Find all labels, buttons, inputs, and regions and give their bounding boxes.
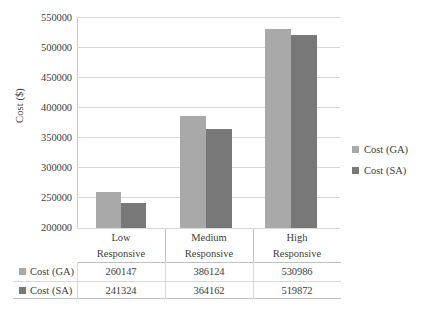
y-tick-label: 550000 xyxy=(10,12,72,23)
bar-chart-figure: Cost ($) 550000 500000 450000 400000 350… xyxy=(0,0,429,320)
plot-area xyxy=(77,17,340,228)
legend-item-cost-ga: Cost (GA) xyxy=(352,139,428,160)
bar-cost-sa-medium xyxy=(206,129,232,228)
table-cell-sa-high: 519872 xyxy=(253,282,341,301)
x-category-line: Responsive xyxy=(253,246,341,262)
bar-cost-sa-low xyxy=(121,203,146,228)
y-tick-label: 350000 xyxy=(10,132,72,143)
series-swatch-ga-icon xyxy=(19,268,26,275)
x-category-label-high: High Responsive xyxy=(253,229,341,262)
x-category-line: Low xyxy=(77,230,165,246)
x-category-label-low: Low Responsive xyxy=(77,229,165,262)
table-cell-sa-low: 241324 xyxy=(77,282,165,301)
table-row-label-sa: Cost (SA) xyxy=(13,282,77,301)
bar-cost-ga-medium xyxy=(180,116,206,228)
y-tick-label: 400000 xyxy=(10,102,72,113)
legend-item-cost-sa: Cost (SA) xyxy=(352,160,428,181)
table-cell-ga-medium: 386124 xyxy=(165,262,253,281)
table-cell-sa-medium: 364162 xyxy=(165,282,253,301)
y-tick-label: 450000 xyxy=(10,72,72,83)
x-category-line: Medium xyxy=(165,230,253,246)
x-category-line: Responsive xyxy=(77,246,165,262)
bar-cost-ga-low xyxy=(96,192,121,228)
table-cell-ga-high: 530986 xyxy=(253,262,341,281)
chart-legend: Cost (GA) Cost (SA) xyxy=(352,139,428,181)
legend-swatch-ga-icon xyxy=(352,146,359,153)
x-category-line: Responsive xyxy=(165,246,253,262)
gridline xyxy=(77,17,340,18)
x-category-line: High xyxy=(253,230,341,246)
series-swatch-sa-icon xyxy=(19,287,26,294)
y-tick-label: 500000 xyxy=(10,42,72,53)
x-category-label-medium: Medium Responsive xyxy=(165,229,253,262)
y-tick-label: 250000 xyxy=(10,192,72,203)
y-axis-tick-labels: 550000 500000 450000 400000 350000 30000… xyxy=(6,0,72,230)
data-table: Cost (GA) 260147 386124 530986 Cost (SA)… xyxy=(13,262,341,299)
legend-swatch-sa-icon xyxy=(352,167,359,174)
legend-label: Cost (GA) xyxy=(364,144,408,155)
bar-cost-sa-high xyxy=(291,35,317,228)
table-cell-ga-low: 260147 xyxy=(77,262,165,281)
table-row-label-text: Cost (SA) xyxy=(30,285,72,296)
table-row-label-ga: Cost (GA) xyxy=(13,262,77,281)
table-row-label-text: Cost (GA) xyxy=(30,266,74,277)
legend-label: Cost (SA) xyxy=(364,165,406,176)
table-row: Cost (GA) 260147 386124 530986 xyxy=(13,262,341,281)
bar-cost-ga-high xyxy=(265,29,291,228)
table-row: Cost (SA) 241324 364162 519872 xyxy=(13,281,341,301)
y-tick-label: 300000 xyxy=(10,162,72,173)
y-tick-label: 200000 xyxy=(10,222,72,233)
x-axis-category-band: Low Responsive Medium Responsive High Re… xyxy=(77,229,341,263)
